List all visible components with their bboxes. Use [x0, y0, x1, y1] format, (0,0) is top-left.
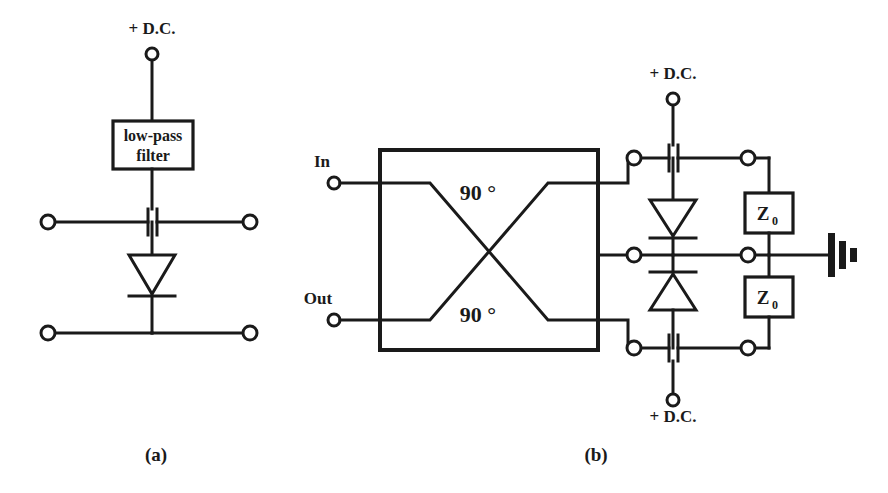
dc-label-a: + D.C. — [129, 19, 176, 38]
ground-bar-3 — [851, 249, 856, 261]
port-terminal-bottom-left-a[interactable] — [41, 326, 55, 340]
z0-label-top: Z — [757, 203, 770, 224]
diode-triangle-a[interactable] — [129, 255, 175, 294]
port-label-out: Out — [304, 289, 333, 308]
figure-canvas: low-pass filter — [0, 0, 888, 493]
panel-caption-b: (b) — [584, 444, 607, 466]
port-terminal-out[interactable] — [328, 314, 340, 326]
port-terminal-top-left-a[interactable] — [41, 215, 55, 229]
dc-terminal-bottom-b[interactable] — [667, 394, 679, 406]
port-terminal-top-right-a[interactable] — [243, 215, 257, 229]
port-terminal-in[interactable] — [328, 177, 340, 189]
diode-triangle-bottom-b[interactable] — [650, 274, 696, 310]
coupler-phase-label-bottom: 90 ° — [460, 302, 496, 327]
dc-terminal-top-b[interactable] — [667, 93, 679, 105]
port-label-in: In — [314, 152, 331, 171]
diode-triangle-top-b[interactable] — [650, 200, 696, 236]
coupler-phase-label-top: 90 ° — [460, 180, 496, 205]
node-terminal-bottom-right[interactable] — [741, 341, 755, 355]
panel-b: In Out 90 ° 90 ° + D.C. — [304, 64, 856, 466]
ground-bar-1 — [829, 234, 834, 276]
node-terminal-mid-left[interactable] — [627, 248, 641, 262]
low-pass-filter-label-line2: filter — [136, 147, 170, 164]
panel-a: low-pass filter — [41, 19, 257, 466]
dc-terminal-a[interactable] — [146, 48, 158, 60]
low-pass-filter-label-line1: low-pass — [124, 127, 183, 145]
node-terminal-mid-right[interactable] — [741, 248, 755, 262]
circuit-diagram-svg: low-pass filter — [0, 0, 888, 493]
dc-label-top-b: + D.C. — [650, 64, 697, 83]
port-terminal-bottom-right-a[interactable] — [243, 326, 257, 340]
node-terminal-bottom-left[interactable] — [627, 341, 641, 355]
z0-label-bottom: Z — [757, 287, 770, 308]
ground-bar-2 — [840, 242, 845, 268]
z0-subscript-bottom: 0 — [772, 298, 778, 312]
node-terminal-top-left[interactable] — [627, 151, 641, 165]
panel-caption-a: (a) — [145, 444, 167, 466]
dc-label-bottom-b: + D.C. — [650, 407, 697, 426]
node-terminal-top-right[interactable] — [741, 151, 755, 165]
z0-subscript-top: 0 — [772, 214, 778, 228]
ground-icon — [829, 234, 856, 276]
